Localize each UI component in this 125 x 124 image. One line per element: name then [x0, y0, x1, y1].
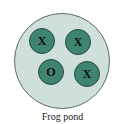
frog-mark: X	[74, 35, 83, 50]
frog-mark: O	[46, 65, 55, 80]
pond-label: Frog pond	[0, 111, 125, 122]
frog-mark: X	[83, 67, 92, 82]
frog-mark: X	[38, 34, 47, 49]
frog-marker: X	[29, 28, 55, 54]
pond-circle	[14, 13, 110, 109]
frog-marker: X	[65, 29, 91, 55]
frog-marker: X	[74, 61, 100, 87]
frog-marker: O	[38, 59, 64, 85]
